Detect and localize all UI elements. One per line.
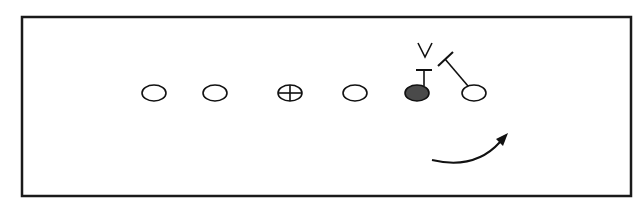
block-vertical [416, 70, 432, 86]
player-center-crossed [278, 85, 302, 101]
player-lineman-4 [343, 85, 367, 101]
player-lineman-2 [203, 85, 227, 101]
player-lineman-1 [142, 85, 166, 101]
defender-v-mark [418, 43, 432, 57]
player-highlighted-filled [405, 85, 429, 101]
player-end [462, 85, 486, 101]
diagram-frame [22, 17, 631, 196]
block-diagonal [438, 52, 468, 86]
play-diagram [0, 0, 638, 206]
motion-arrow [432, 133, 508, 163]
